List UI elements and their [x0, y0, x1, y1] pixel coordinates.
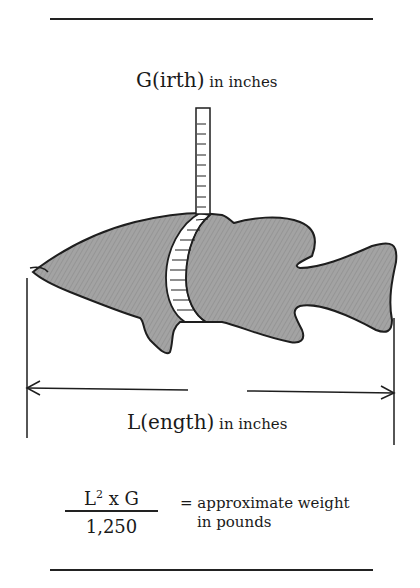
length-label-unit: in inches — [214, 415, 287, 433]
formula-result-line1: = approximate weight — [180, 494, 350, 513]
formula-fraction: L2 x G 1,250 — [65, 483, 158, 539]
length-arrow-left — [27, 388, 188, 390]
formula-denominator: 1,250 — [65, 515, 158, 539]
length-label: L(ength) in inches — [127, 410, 287, 434]
formula-numerator: L2 x G — [65, 483, 158, 507]
formula-result-line2: in pounds — [180, 513, 350, 532]
fish-body — [33, 213, 396, 353]
fraction-bar — [65, 510, 158, 512]
bottom-rule — [50, 569, 373, 571]
formula-result: = approximate weight in pounds — [180, 494, 350, 532]
length-arrow-right — [247, 391, 394, 393]
weight-formula: L2 x G 1,250 = approximate weight in pou… — [65, 483, 365, 543]
length-label-main: L(ength) — [127, 410, 214, 434]
